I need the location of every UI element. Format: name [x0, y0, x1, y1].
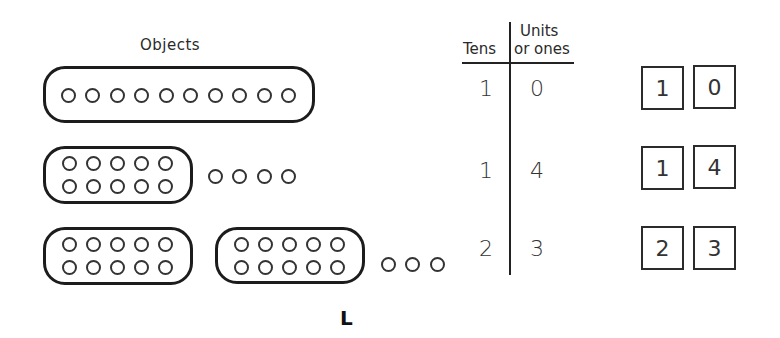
object-circle — [110, 237, 125, 252]
card-tens-row3: 2 — [641, 226, 684, 270]
object-circle — [208, 88, 223, 103]
object-circle — [158, 260, 173, 275]
object-circle — [110, 88, 125, 103]
table-tens-row3: 2 — [471, 236, 501, 261]
object-circle — [405, 257, 420, 272]
object-circle — [134, 179, 149, 194]
object-circle — [281, 88, 296, 103]
object-circle — [258, 237, 273, 252]
object-circle — [85, 88, 100, 103]
object-circle — [430, 257, 445, 272]
table-vertical-rule — [509, 22, 511, 275]
object-circle — [62, 179, 77, 194]
object-circle — [86, 156, 101, 171]
card-ones-row2: 4 — [693, 145, 736, 189]
object-circle — [86, 179, 101, 194]
ten-group-row2 — [43, 146, 193, 204]
object-circle — [86, 260, 101, 275]
object-circle — [282, 237, 297, 252]
object-circle — [110, 179, 125, 194]
card-tens-row2: 1 — [641, 146, 684, 190]
units-header-line2: or ones — [514, 42, 570, 57]
card-ones-row1: 0 — [693, 65, 736, 109]
object-circle — [62, 237, 77, 252]
object-circle — [306, 237, 321, 252]
object-circle — [232, 169, 247, 184]
figure-label: L — [340, 306, 353, 330]
card-tens-row1: 1 — [641, 66, 684, 110]
object-circle — [110, 260, 125, 275]
object-circle — [159, 88, 174, 103]
table-tens-row2: 1 — [471, 158, 501, 183]
object-circle — [282, 260, 297, 275]
object-circle — [158, 156, 173, 171]
object-circle — [330, 260, 345, 275]
tens-header: Tens — [463, 42, 496, 57]
card-ones-row3: 3 — [693, 226, 736, 270]
table-tens-row1: 1 — [471, 76, 501, 101]
object-circle — [86, 237, 101, 252]
object-circle — [281, 169, 296, 184]
object-circle — [234, 237, 249, 252]
object-circle — [208, 169, 223, 184]
object-circle — [158, 179, 173, 194]
object-circle — [134, 88, 149, 103]
object-circle — [257, 169, 272, 184]
object-circle — [306, 260, 321, 275]
object-circle — [234, 260, 249, 275]
object-circle — [134, 156, 149, 171]
ten-group-row3-b — [215, 227, 365, 284]
units-header-line1: Units — [520, 24, 558, 39]
object-circle — [158, 237, 173, 252]
table-ones-row1: 0 — [522, 76, 552, 101]
ten-group-row1 — [43, 66, 315, 123]
object-circle — [110, 156, 125, 171]
object-circle — [61, 88, 76, 103]
objects-heading: Objects — [140, 36, 200, 54]
object-circle — [134, 260, 149, 275]
ten-group-row3-a — [43, 227, 193, 285]
object-circle — [257, 88, 272, 103]
object-circle — [62, 156, 77, 171]
object-circle — [134, 237, 149, 252]
object-circle — [232, 88, 247, 103]
table-ones-row2: 4 — [522, 158, 552, 183]
table-ones-row3: 3 — [522, 236, 552, 261]
object-circle — [381, 257, 396, 272]
table-horizontal-rule — [462, 62, 574, 64]
object-circle — [330, 237, 345, 252]
object-circle — [258, 260, 273, 275]
object-circle — [183, 88, 198, 103]
object-circle — [62, 260, 77, 275]
